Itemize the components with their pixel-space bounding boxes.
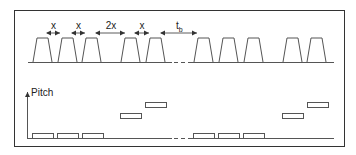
pitch-step-low (244, 134, 265, 139)
pulse (307, 38, 326, 62)
interval-label-x3: x (140, 20, 145, 31)
pitch-step-mid (121, 114, 142, 119)
pulse (244, 38, 263, 62)
bottom-panel (27, 92, 334, 139)
pulse (58, 38, 77, 62)
interval-label-2x: 2x (106, 20, 117, 31)
top-panel (28, 38, 334, 63)
pitch-step-high (146, 103, 167, 108)
pitch-step-low (219, 134, 240, 139)
pitch-timing-diagram: x x 2x x tb Pitch (0, 0, 356, 155)
pulse (194, 38, 213, 62)
pitch-step-low (58, 134, 79, 139)
pulse (82, 38, 101, 62)
pulse (33, 38, 52, 62)
pulse (146, 38, 165, 62)
interval-label-x1: x (51, 20, 56, 31)
interval-label-x2: x (76, 20, 81, 31)
pulse (219, 38, 238, 62)
interval-label-tb: tb (176, 20, 183, 33)
pitch-step-high (308, 103, 329, 108)
pitch-step-mid (283, 114, 304, 119)
pitch-step-low (83, 134, 104, 139)
pulse (121, 38, 140, 62)
pitch-step-low (194, 134, 215, 139)
pitch-step-low (33, 134, 54, 139)
pitch-axis-label: Pitch (31, 87, 53, 98)
pulse (283, 38, 302, 62)
